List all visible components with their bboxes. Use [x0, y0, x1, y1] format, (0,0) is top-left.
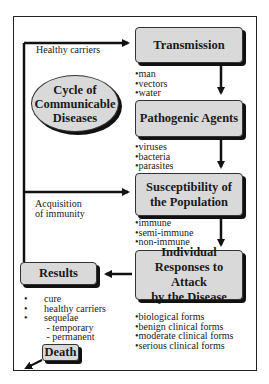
list-item: parasites	[135, 161, 174, 171]
title-line-3: Diseases	[34, 111, 115, 125]
transmission-list: man vectors water	[135, 69, 167, 98]
sub-list-item: permanent	[52, 332, 94, 342]
list-item: water	[135, 88, 167, 98]
title-line-1: Cycle of	[34, 83, 115, 97]
susceptibility-list: immune semi-immune non-immune	[135, 218, 194, 247]
pathogenic-agents-box: Pathogenic Agents	[135, 100, 243, 137]
healthy-carriers-label: Healthy carriers	[36, 45, 100, 55]
death-label: Death	[45, 345, 77, 360]
susceptibility-line-1: Susceptibility of	[146, 180, 232, 195]
responses-line-1: Individual	[136, 245, 242, 260]
results-label: Results	[39, 266, 78, 281]
acquisition-label: Acquisition of immunity	[35, 199, 85, 219]
list-item: serious clinical forms	[135, 341, 233, 351]
transmission-box: Transmission	[135, 27, 243, 63]
death-box: Death	[42, 344, 79, 361]
susceptibility-line-2: the Population	[146, 195, 232, 210]
pathogenic-label: Pathogenic Agents	[140, 111, 238, 126]
transmission-label: Transmission	[153, 38, 224, 53]
responses-line-2: Responses to Attack	[136, 260, 242, 290]
results-list: •cure •healthy carriers •sequelae - temp…	[24, 294, 106, 342]
pathogenic-list: viruses bacteria parasites	[135, 142, 174, 171]
susceptibility-box: Susceptibility of the Population	[135, 173, 243, 216]
title-line-2: Communicable	[34, 97, 115, 111]
responses-line-3: by the Disease	[136, 290, 242, 305]
responses-list: biological forms benign clinical forms m…	[135, 312, 233, 350]
cycle-title-ellipse: Cycle of Communicable Diseases	[31, 75, 119, 132]
individual-responses-box: Individual Responses to Attack by the Di…	[135, 250, 243, 300]
acquisition-line-2: of immunity	[35, 209, 85, 219]
results-box: Results	[20, 262, 97, 285]
